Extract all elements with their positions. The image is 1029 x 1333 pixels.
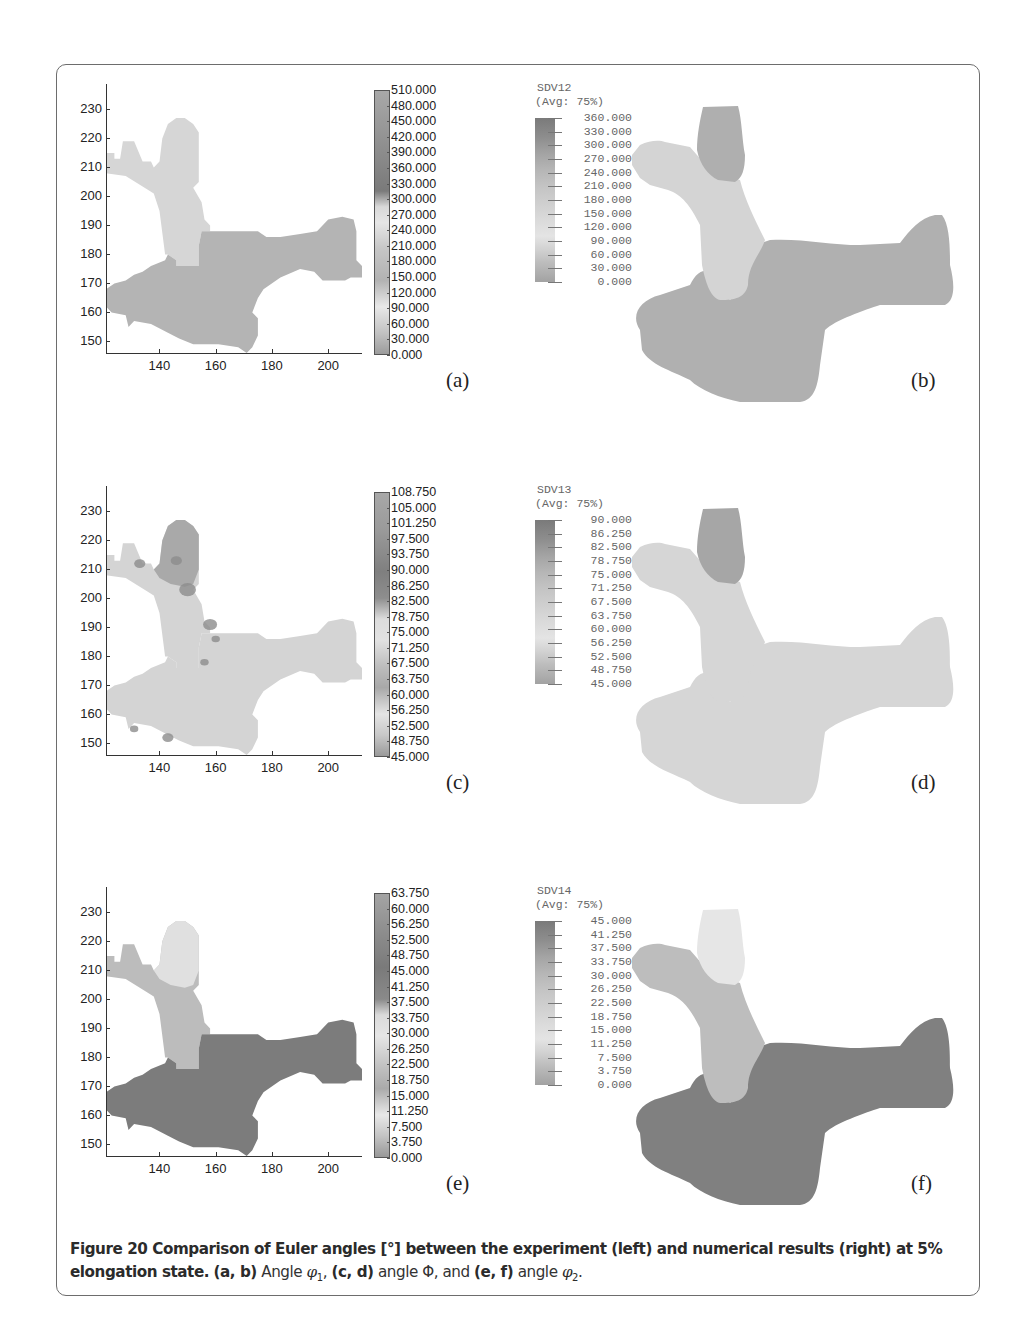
caption-part: (a, b) bbox=[214, 1263, 257, 1281]
caption-part: . bbox=[578, 1263, 582, 1281]
caption-part: angle Φ, and bbox=[374, 1263, 475, 1281]
caption-part: Angle bbox=[257, 1263, 307, 1281]
caption-part: (e, f) bbox=[474, 1263, 513, 1281]
caption-part: φ bbox=[307, 1263, 317, 1281]
caption-details: (a, b) Angle φ1, (c, d) angle Φ, and (e,… bbox=[214, 1263, 583, 1281]
caption-part: angle bbox=[513, 1263, 562, 1281]
panel-label-f: (f) bbox=[911, 1171, 932, 1196]
caption-part: (c, d) bbox=[331, 1263, 373, 1281]
caption-part: φ bbox=[562, 1263, 572, 1281]
figure-caption: Figure 20 Comparison of Euler angles [°]… bbox=[70, 1238, 970, 1289]
simulation-map-f bbox=[0, 0, 1029, 1333]
